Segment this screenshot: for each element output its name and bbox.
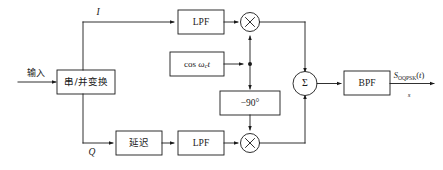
inphase-branch-label: I [95, 7, 100, 17]
phase-shift-label: −90° [241, 98, 260, 108]
mixer-lower[interactable] [241, 134, 260, 153]
bpf-label: BPF [359, 78, 376, 88]
quadrature-branch-label: Q [89, 147, 96, 157]
output-paren-close: ) [421, 70, 424, 80]
summer-node[interactable]: Σ [293, 72, 317, 96]
output-signal-label: SOQPSK(t) [394, 70, 425, 81]
delay-label: 延迟 [129, 137, 149, 148]
block-diagram-canvas: 输入 串/并变换 I Q LPF co [0, 0, 443, 170]
carrier-label: cos ωct [184, 59, 210, 69]
lpf-upper-label: LPF [193, 17, 209, 27]
carrier-distribution-wires [248, 36, 252, 89]
output-signal-subscript: OQPSK [398, 75, 416, 81]
oqpsk-modulator-diagram: 输入 串/并变换 I Q LPF co [0, 0, 443, 170]
summer-symbol: Σ [302, 77, 308, 88]
mixer-upper[interactable] [241, 13, 260, 32]
carrier-prefix: cos [184, 59, 198, 69]
output-denominator-label: s [408, 91, 411, 99]
input-label: 输入 [27, 67, 45, 78]
serial-parallel-label: 串/并变换 [64, 76, 107, 87]
carrier-junction-dot [248, 62, 252, 66]
lpf-lower-label: LPF [193, 138, 209, 148]
